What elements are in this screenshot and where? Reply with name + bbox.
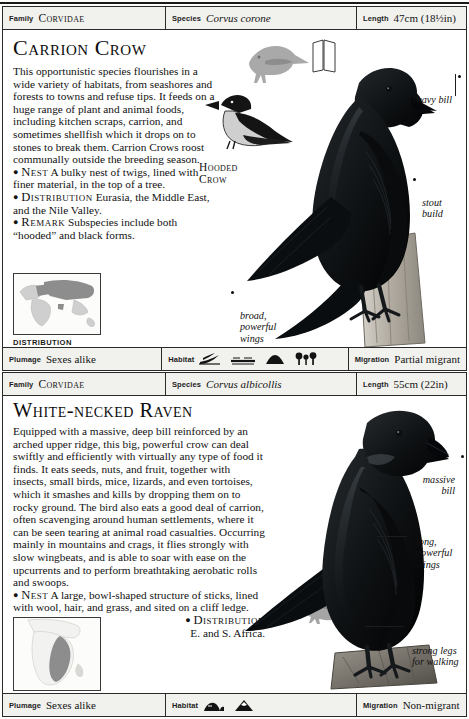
plumage-label: Plumage — [9, 355, 41, 364]
species-cell: Species Corvus corone — [165, 7, 356, 29]
description-paragraph: Equipped with a massive, deep bill reinf… — [13, 425, 265, 589]
habitat-label: Habitat — [168, 355, 194, 364]
entry-content: White-necked Raven Equipped with a massi… — [3, 395, 466, 694]
length-label: Length — [363, 380, 389, 389]
family-cell: Family Corvidae — [3, 373, 165, 395]
distribution-map-caption: DISTRIBUTION — [13, 338, 72, 347]
page-title: Carrion Crow — [13, 35, 146, 61]
migration-label: Migration — [355, 355, 390, 364]
callout-dot — [407, 517, 410, 520]
annotation-long-powerful-wings: long, powerful wings — [407, 513, 466, 570]
fact-nest: ● Nest A bulky nest of twigs, lined with… — [13, 166, 218, 191]
entry-footer-row: Plumage Sexes alike Habitat — [3, 693, 466, 716]
trees-icon — [294, 352, 318, 366]
plumage-cell: Plumage Sexes alike — [3, 348, 161, 370]
fact-key: Nest — [21, 588, 48, 602]
species-cell: Species Corvus albicollis — [165, 373, 356, 395]
description-paragraph: This opportunistic species flourishes in… — [13, 65, 218, 166]
callout-dot — [458, 75, 461, 78]
annotation-text: stout build — [422, 197, 443, 219]
annotation-heavy-bill: heavy bill — [396, 71, 461, 105]
hill-icon — [265, 353, 285, 365]
family-label: Family — [9, 380, 33, 389]
length-cell: Length 55cm (22in) — [356, 373, 466, 395]
leader-line-legs — [365, 626, 403, 627]
habitat-cell: Habitat — [165, 694, 356, 716]
field-guide-page: Family Corvidae Species Corvus corone Le… — [0, 0, 469, 719]
fact-value: A large, bowl-shaped structure of sticks… — [13, 589, 258, 614]
page-title: White-necked Raven — [13, 399, 193, 422]
habitat-cell: Habitat — [161, 348, 347, 370]
migration-label: Migration — [363, 701, 398, 710]
species-value: Corvus albicollis — [206, 378, 281, 390]
length-value: 55cm (22in) — [394, 378, 448, 390]
annotation-broad-powerful-wings: broad, powerful wings — [231, 287, 298, 344]
distribution-map-africa — [13, 617, 101, 691]
callout-dot — [231, 291, 234, 294]
migration-cell: Migration Non-migrant — [356, 694, 466, 716]
habitat-label: Habitat — [172, 701, 198, 710]
annotation-strong-legs-for-walking: strong legs for walking — [403, 622, 466, 668]
family-cell: Family Corvidae — [3, 7, 165, 29]
fact-nest: ● Nest A large, bowl-shaped structure of… — [13, 589, 265, 614]
fact-key: Nest — [21, 165, 48, 179]
fact-key: Distribution — [21, 190, 93, 204]
callout-dot — [413, 178, 416, 181]
species-entry-carrion-crow: Family Corvidae Species Corvus corone Le… — [2, 6, 467, 371]
entry-content: Carrion Crow This opportunistic species … — [3, 29, 466, 348]
plumage-label: Plumage — [9, 701, 41, 710]
annotation-text: massive bill — [423, 474, 455, 496]
annotation-text: strong legs for walking — [412, 645, 459, 667]
species-description: This opportunistic species flourishes in… — [13, 65, 218, 241]
annotation-stout-build: stout build — [413, 174, 466, 220]
migration-value: Non-migrant — [403, 699, 460, 711]
page-top-rule — [0, 2, 469, 4]
distribution-map-eurasia — [13, 273, 101, 335]
leader-line-heavy-bill — [455, 74, 456, 96]
species-label: Species — [172, 380, 201, 389]
fact-distribution: ● Distribution Eurasia, the Middle East,… — [13, 191, 218, 216]
annotation-text: broad, powerful wings — [240, 310, 276, 344]
annotation-text: heavy bill — [412, 94, 452, 105]
migration-value: Partial migrant — [394, 353, 460, 365]
plumage-value: Sexes alike — [46, 699, 96, 711]
annotation-massive-bill: massive bill — [401, 451, 464, 497]
shoreline-icon — [230, 353, 256, 365]
migration-cell: Migration Partial migrant — [348, 348, 466, 370]
fact-key: Remark — [21, 215, 65, 229]
reeds-icon — [199, 353, 221, 365]
plumage-value: Sexes alike — [46, 353, 96, 365]
annotation-text: long, powerful wings — [416, 536, 452, 570]
leader-line-wings — [377, 536, 407, 537]
fact-remark: ● Remark Subspecies include both “hooded… — [13, 216, 218, 241]
length-label: Length — [363, 14, 389, 23]
species-label: Species — [172, 14, 201, 23]
length-value: 47cm (18½in) — [394, 12, 456, 24]
entry-footer-row: Plumage Sexes alike Habitat — [3, 347, 466, 370]
family-value: Corvidae — [38, 378, 84, 390]
entry-header-row: Family Corvidae Species Corvus albicolli… — [3, 373, 466, 396]
rock-outcrop-icon — [203, 699, 225, 712]
mountain-icon — [234, 699, 254, 712]
family-label: Family — [9, 14, 33, 23]
callout-dot — [461, 455, 464, 458]
entry-header-row: Family Corvidae Species Corvus corone Le… — [3, 7, 466, 30]
plumage-cell: Plumage Sexes alike — [3, 694, 165, 716]
length-cell: Length 47cm (18½in) — [356, 7, 466, 29]
species-entry-white-necked-raven: Family Corvidae Species Corvus albicolli… — [2, 372, 467, 717]
family-value: Corvidae — [38, 12, 84, 24]
species-value: Corvus corone — [206, 12, 271, 24]
callout-dot — [403, 626, 406, 629]
